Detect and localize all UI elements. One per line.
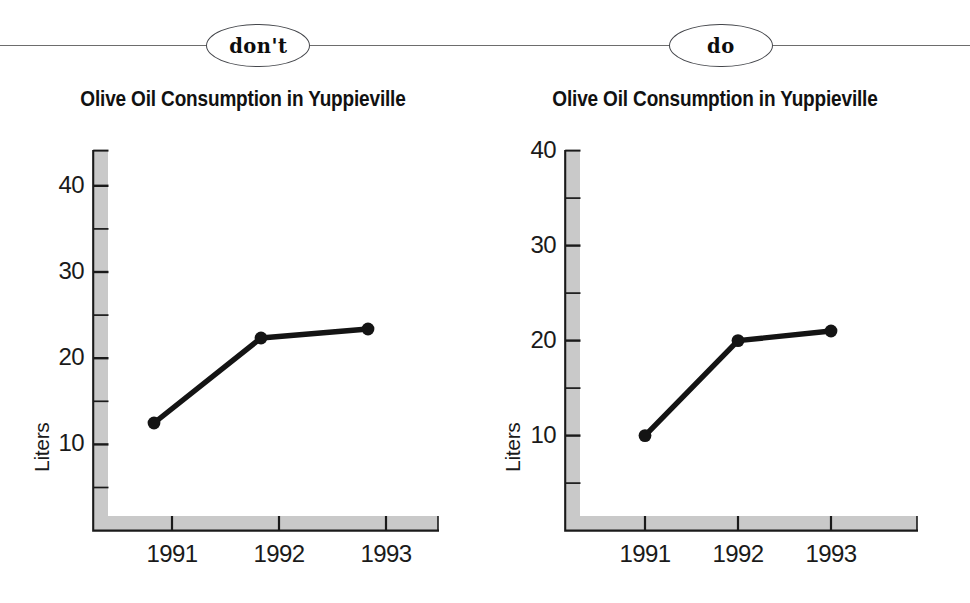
dont-badge: don't xyxy=(206,24,310,67)
y-tick-label-20: 20 xyxy=(500,326,556,354)
series-markers xyxy=(148,323,375,430)
chart-panel-dont: Olive Oil Consumption in Yuppieville xyxy=(8,72,478,592)
plot-area-dont xyxy=(8,72,478,592)
y-tick-label-20: 20 xyxy=(28,343,84,371)
y-axis-band xyxy=(94,151,108,530)
x-tick-label-1991: 1991 xyxy=(595,540,695,568)
x-tick-label-1993: 1993 xyxy=(781,540,881,568)
x-tick-label-1992: 1992 xyxy=(229,540,329,568)
y-tick-label-40: 40 xyxy=(500,136,556,164)
data-point xyxy=(825,325,838,338)
x-tick-label-1992: 1992 xyxy=(688,540,788,568)
y-tick-label-30: 30 xyxy=(28,257,84,285)
y-axis-title-do: Liters xyxy=(501,422,525,472)
divider-rule xyxy=(0,45,970,46)
x-axis-band xyxy=(566,516,917,530)
x-tick-label-1991: 1991 xyxy=(122,540,222,568)
data-point xyxy=(148,417,161,430)
y-axis-title-dont: Liters xyxy=(30,422,54,472)
data-point xyxy=(732,334,745,347)
series-markers xyxy=(639,325,838,442)
do-badge-label: do xyxy=(707,35,735,56)
y-tick-label-40: 40 xyxy=(28,171,84,199)
dont-badge-label: don't xyxy=(229,35,287,56)
data-point xyxy=(362,323,375,336)
do-badge: do xyxy=(669,24,773,67)
do-dont-divider: don't do xyxy=(0,0,970,70)
x-tick-label-1993: 1993 xyxy=(336,540,436,568)
chart-panel-do: Olive Oil Consumption in Yuppieville xyxy=(480,72,950,592)
y-tick-label-30: 30 xyxy=(500,231,556,259)
data-point xyxy=(639,429,652,442)
data-point xyxy=(255,332,268,345)
